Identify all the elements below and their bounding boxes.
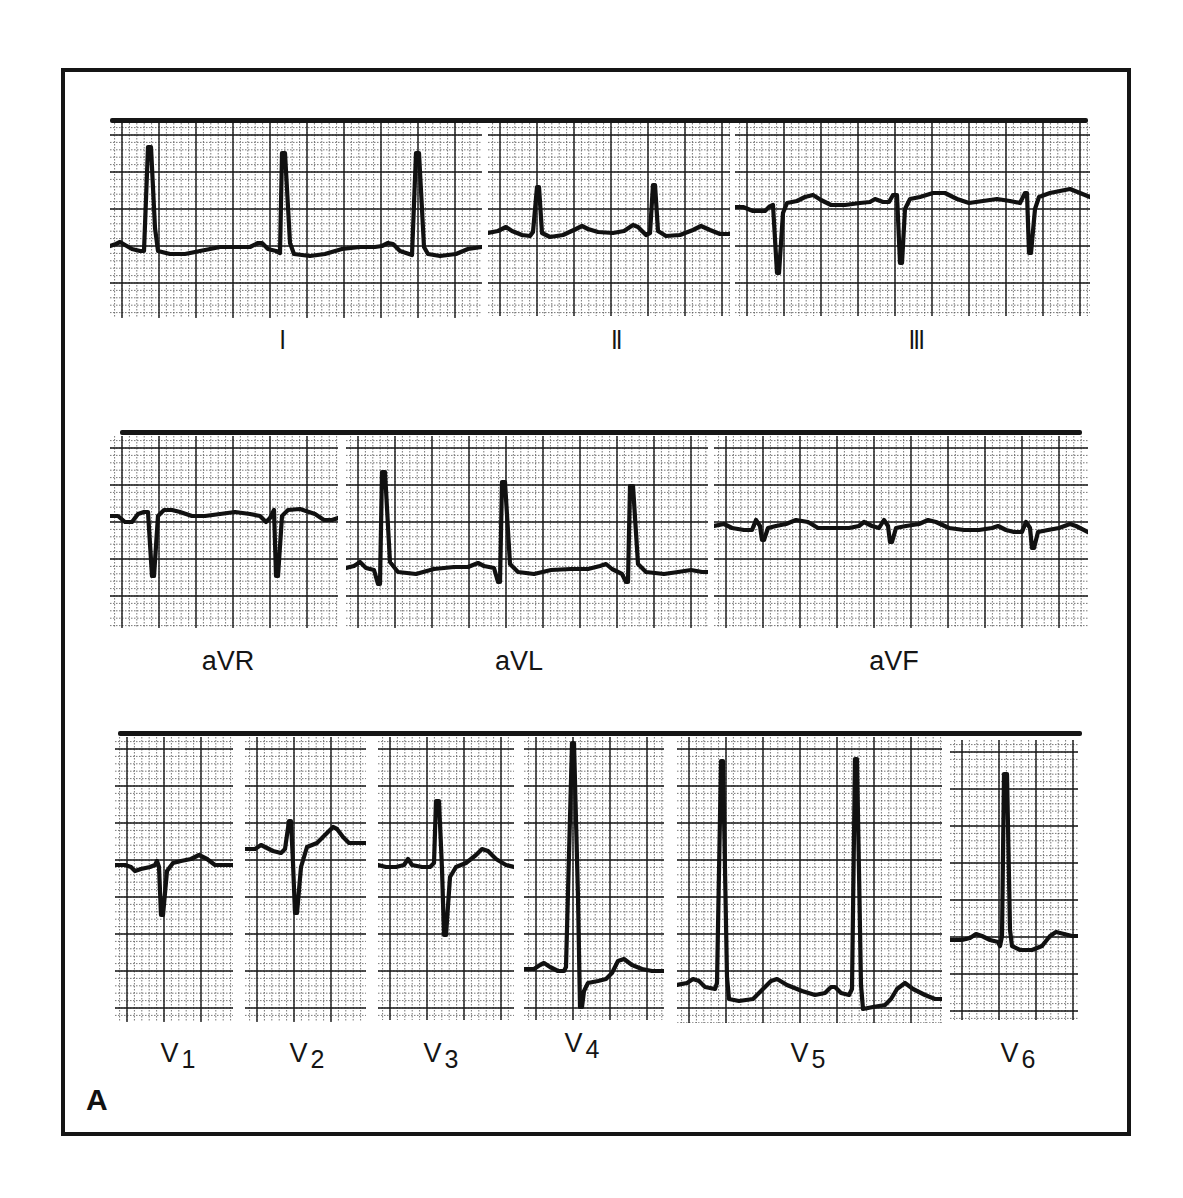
ecg-grid — [735, 123, 1090, 316]
ecg-grid — [950, 740, 1078, 1020]
lead-label-v2: V2 — [290, 1040, 325, 1067]
lead-label-iii: III — [910, 326, 924, 354]
ecg-panel-i — [110, 123, 482, 318]
ecg-grid — [110, 436, 338, 628]
ecg-panel-v3 — [378, 737, 514, 1020]
ecg-grid — [714, 436, 1088, 628]
lead-label-v3: V3 — [424, 1040, 459, 1067]
row-3-top-bar — [118, 731, 1082, 736]
ecg-panel-v6 — [950, 740, 1078, 1020]
lead-label-v1: V1 — [161, 1040, 196, 1067]
lead-label-v5: V5 — [791, 1040, 826, 1067]
ecg-grid — [346, 436, 708, 628]
lead-label-avf: aVF — [869, 648, 919, 675]
ecg-panel-ii — [488, 123, 730, 316]
ecg-grid — [245, 737, 366, 1022]
lead-label-avl: aVL — [495, 648, 543, 675]
ecg-trace-ii — [488, 185, 730, 237]
ecg-grid — [110, 123, 482, 318]
row-2-top-bar — [120, 430, 1082, 435]
panel-letter: A — [86, 1083, 108, 1117]
ecg-panel-v5 — [677, 737, 942, 1023]
ecg-panel-v4 — [524, 737, 664, 1020]
lead-label-i: I — [281, 326, 286, 354]
ecg-trace-v1 — [115, 855, 233, 915]
ecg-panel-avf — [714, 436, 1088, 628]
lead-label-avr: aVR — [202, 648, 255, 675]
ecg-panel-v2 — [245, 737, 366, 1022]
ecg-grid — [378, 737, 514, 1020]
lead-label-ii: II — [612, 326, 622, 354]
ecg-panel-v1 — [115, 737, 233, 1022]
ecg-grid — [524, 737, 664, 1020]
ecg-panel-iii — [735, 123, 1090, 316]
ecg-grid — [115, 737, 233, 1022]
ecg-grid — [677, 737, 942, 1023]
ecg-grid — [488, 123, 730, 316]
lead-label-v6: V6 — [1001, 1040, 1036, 1067]
ecg-panel-avl — [346, 436, 708, 628]
ecg-panel-avr — [110, 436, 338, 628]
lead-label-v4: V4 — [565, 1030, 600, 1057]
